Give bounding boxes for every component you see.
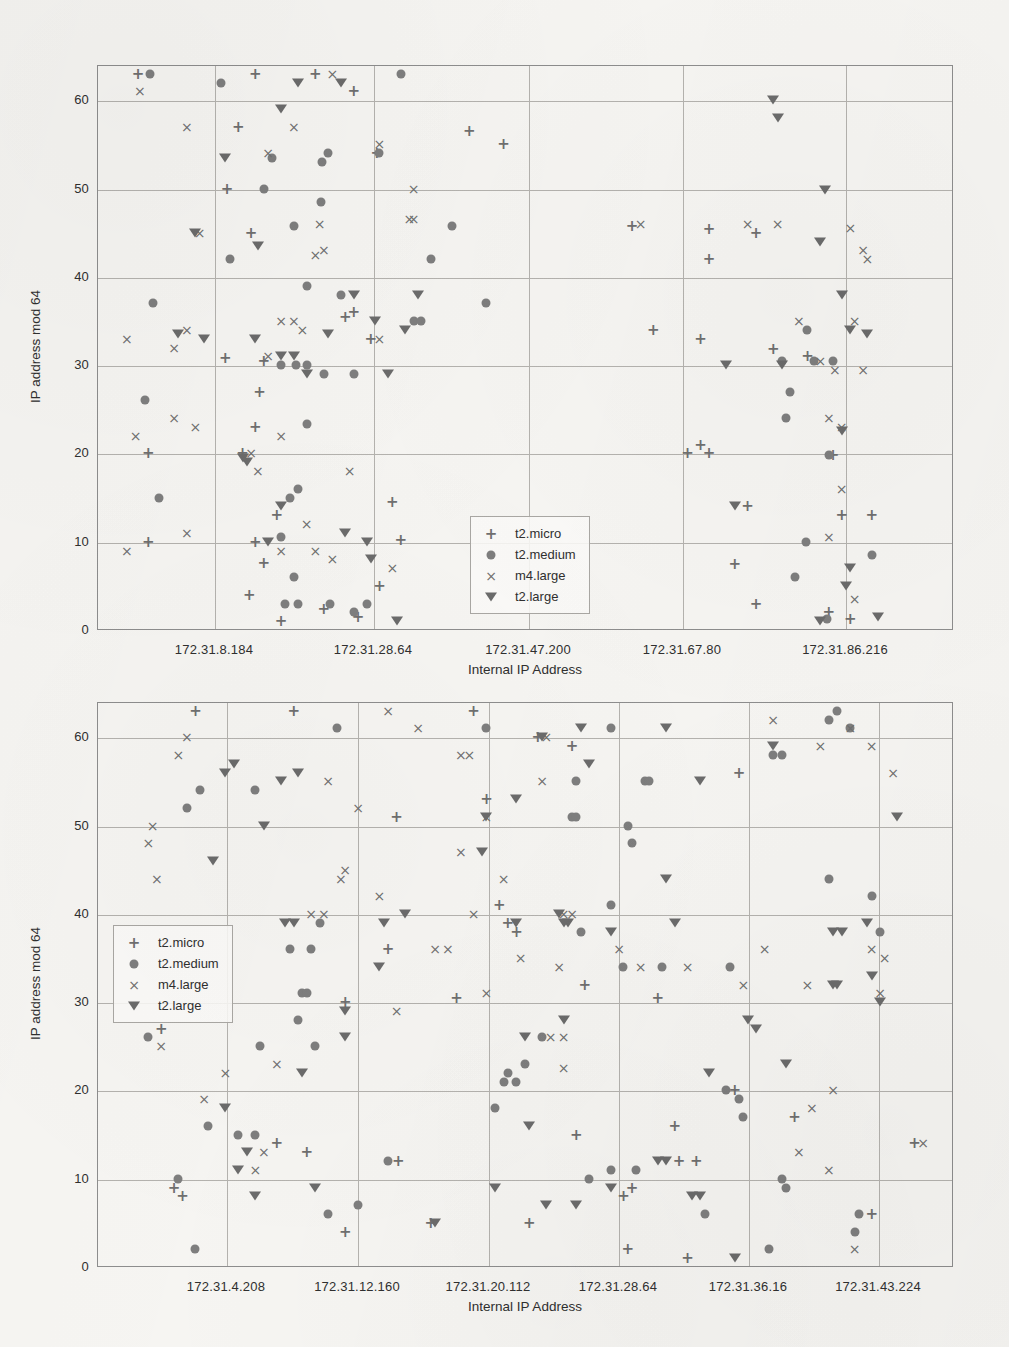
gridline-vertical (846, 66, 847, 629)
marker-t2-large (128, 1002, 140, 1011)
gridline-vertical (683, 66, 684, 629)
legend-item-label: m4.large (158, 977, 209, 992)
gridline-horizontal (98, 190, 952, 191)
y-axis-tick-label: 10 (55, 1171, 89, 1186)
legend-item-label: t2.medium (515, 547, 576, 562)
legend-item: t2.large (114, 995, 232, 1016)
legend-item: +t2.micro (471, 523, 589, 544)
legend-item-label: t2.large (515, 589, 558, 604)
y-axis-tick-label: 60 (55, 729, 89, 744)
gridline-vertical (358, 703, 359, 1266)
x-axis-tick-label: 172.31.86.216 (775, 642, 915, 657)
gridline-horizontal (98, 454, 952, 455)
legend-item: t2.medium (471, 544, 589, 565)
x-axis-tick-label: 172.31.28.64 (303, 642, 443, 657)
x-axis-tick-label: 172.31.4.208 (156, 1279, 296, 1294)
legend-item: ×m4.large (471, 565, 589, 586)
marker-m4-large: × (485, 569, 497, 583)
x-axis-tick-label: 172.31.12.160 (287, 1279, 427, 1294)
gridline-vertical (215, 66, 216, 629)
gridline-horizontal (98, 366, 952, 367)
y-axis-tick-label: 10 (55, 534, 89, 549)
gridline-vertical (749, 703, 750, 1266)
gridline-vertical (879, 703, 880, 1266)
gridline-vertical (619, 703, 620, 1266)
gridline-vertical (374, 66, 375, 629)
legend-item-label: t2.micro (515, 526, 561, 541)
y-axis-tick-label: 60 (55, 92, 89, 107)
y-axis-tick-label: 30 (55, 357, 89, 372)
marker-t2-micro: + (485, 527, 498, 542)
y-axis-tick-label: 0 (55, 1259, 89, 1274)
y-axis-tick-label: 20 (55, 1082, 89, 1097)
x-axis-title-bottom: Internal IP Address (465, 1299, 585, 1314)
x-axis-tick-label: 172.31.67.80 (612, 642, 752, 657)
y-axis-tick-label: 40 (55, 269, 89, 284)
gridline-horizontal (98, 101, 952, 102)
x-axis-title-top: Internal IP Address (465, 662, 585, 677)
x-axis-tick-label: 172.31.8.184 (144, 642, 284, 657)
x-axis-tick-label: 172.31.47.200 (458, 642, 598, 657)
y-axis-tick-label: 30 (55, 994, 89, 1009)
legend-item-label: t2.medium (158, 956, 219, 971)
legend-item: +t2.micro (114, 932, 232, 953)
y-axis-title-top: IP address mod 64 (28, 289, 43, 402)
legend-bottom: +t2.microt2.medium×m4.larget2.large (113, 925, 233, 1023)
y-axis-tick-label: 50 (55, 181, 89, 196)
gridline-horizontal (98, 278, 952, 279)
x-axis-tick-label: 172.31.28.64 (548, 1279, 688, 1294)
marker-t2-micro: + (128, 936, 141, 951)
legend-top: +t2.microt2.medium×m4.larget2.large (470, 516, 590, 614)
marker-m4-large: × (128, 978, 140, 992)
y-axis-title-bottom: IP address mod 64 (28, 926, 43, 1039)
legend-item: t2.medium (114, 953, 232, 974)
legend-item-label: m4.large (515, 568, 566, 583)
legend-item: t2.large (471, 586, 589, 607)
marker-t2-large (485, 593, 497, 602)
marker-t2-medium (487, 551, 496, 560)
legend-item-label: t2.large (158, 998, 201, 1013)
y-axis-tick-label: 50 (55, 818, 89, 833)
y-axis-tick-label: 40 (55, 906, 89, 921)
marker-t2-medium (130, 960, 139, 969)
legend-item: ×m4.large (114, 974, 232, 995)
gridline-vertical (489, 703, 490, 1266)
x-axis-tick-label: 172.31.20.112 (418, 1279, 558, 1294)
x-axis-tick-label: 172.31.36.16 (678, 1279, 818, 1294)
legend-item-label: t2.micro (158, 935, 204, 950)
y-axis-tick-label: 0 (55, 622, 89, 637)
y-axis-tick-label: 20 (55, 445, 89, 460)
x-axis-tick-label: 172.31.43.224 (808, 1279, 948, 1294)
